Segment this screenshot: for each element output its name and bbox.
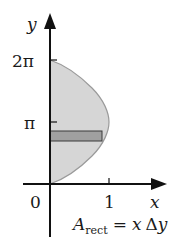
approximating-rectangle	[50, 131, 102, 141]
formula-subscript: rect	[85, 224, 108, 237]
x-axis-arrow-icon	[151, 178, 167, 190]
formula-x: x	[132, 214, 142, 234]
y-axis-arrow-icon	[44, 13, 56, 29]
y-tick-label-2pi: 2π	[12, 51, 34, 71]
origin-label: 0	[30, 192, 41, 212]
formula-y: y	[157, 214, 168, 234]
shaded-region	[50, 60, 109, 184]
x-axis-label: x	[150, 192, 160, 212]
y-axis-label: y	[26, 14, 37, 34]
formula-delta: Δ	[145, 214, 157, 234]
region-diagram: y 2π π 0 1 x Arect=xΔy	[0, 0, 184, 242]
area-formula: Arect=xΔy	[71, 214, 168, 237]
formula-equals: =	[113, 214, 127, 234]
formula-A: A	[71, 214, 85, 234]
y-tick-label-pi: π	[24, 113, 35, 133]
x-tick-label-1: 1	[104, 192, 115, 212]
